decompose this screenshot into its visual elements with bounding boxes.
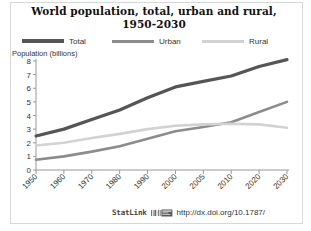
x-axis-group: [36, 170, 289, 174]
x-tick-label: 1990: [132, 172, 151, 191]
x-tick-label: 2000: [160, 172, 179, 191]
y-tick-label: 7: [27, 71, 32, 80]
chart-svg: 012345678 195019601970198019902000200520…: [0, 0, 311, 231]
x-tick-label: 1960: [48, 172, 67, 191]
y-tick-label: 1: [27, 152, 32, 161]
y-tick-label: 4: [27, 112, 32, 121]
chart-footer: StatLink http://dx.doi.org/10.1787/: [112, 208, 265, 217]
y-tick-labels: 012345678: [27, 57, 32, 175]
x-tick-label: 2010: [216, 172, 235, 191]
series-line-urban: [36, 102, 287, 160]
statlink-label: StatLink: [112, 208, 147, 217]
x-tick-label: 2020: [244, 172, 263, 191]
y-tick-label: 8: [27, 57, 32, 66]
series-group: [36, 60, 287, 160]
x-tick-label: 1980: [104, 172, 123, 191]
x-tick-labels: 1950196019701980199020002005201020202030: [20, 172, 290, 191]
y-tick-label: 6: [27, 84, 32, 93]
y-tick-label: 3: [27, 125, 32, 134]
x-tick-label: 1950: [20, 172, 39, 191]
y-tick-label: 2: [27, 139, 32, 148]
y-axis-group: [33, 59, 36, 170]
x-tick-label: 2005: [188, 172, 207, 191]
barcode-icon: [151, 209, 173, 217]
chart-figure: World population, total, urban and rural…: [0, 0, 311, 231]
y-tick-label: 5: [27, 98, 32, 107]
x-tick-label: 2030: [271, 172, 290, 191]
plot-area: 012345678 195019601970198019902000200520…: [0, 0, 311, 231]
x-tick-label: 1970: [76, 172, 95, 191]
statlink-url: http://dx.doi.org/10.1787/: [177, 208, 266, 217]
